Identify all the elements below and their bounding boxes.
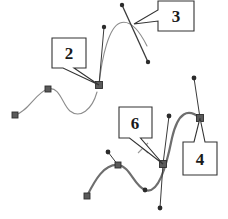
bezier-figure-canvas — [0, 0, 228, 219]
direction-handle-handle-3-diagonal[interactable] — [122, 5, 148, 62]
curve-path-group — [15, 22, 200, 196]
control-point-control-4-top[interactable] — [192, 76, 197, 81]
anchor-point-anchor-lower-left-end[interactable] — [84, 193, 90, 199]
anchor-point-anchor-left-mid[interactable] — [45, 86, 51, 92]
control-point-control-3-top[interactable] — [120, 3, 124, 7]
bezier-curve-path-upper-left — [15, 89, 97, 115]
figure-root: 2346 — [0, 0, 228, 219]
control-point-control-6-bottom[interactable] — [158, 206, 163, 211]
anchor-point-anchor-lower-mid[interactable] — [115, 162, 121, 168]
callout-box-3[interactable] — [134, 1, 194, 31]
anchor-point-anchor-left-end[interactable] — [12, 112, 18, 118]
bezier-curve-path-upper-right — [99, 22, 147, 85]
control-point-control-lower-valley[interactable] — [143, 188, 148, 193]
callout-box-2[interactable] — [52, 38, 99, 85]
control-point-control-3-bottom[interactable] — [146, 60, 150, 64]
anchor-point-group — [12, 82, 204, 200]
control-point-control-2-top[interactable] — [102, 25, 106, 29]
control-point-control-lower-peak[interactable] — [106, 150, 111, 155]
control-point-control-6-top[interactable] — [167, 114, 172, 119]
direction-handle-handle-4-upper[interactable] — [194, 78, 200, 118]
direction-handle-handle-6-lower[interactable] — [160, 164, 163, 208]
callout-box-4[interactable] — [183, 118, 217, 175]
callout-box-6[interactable] — [119, 107, 163, 164]
